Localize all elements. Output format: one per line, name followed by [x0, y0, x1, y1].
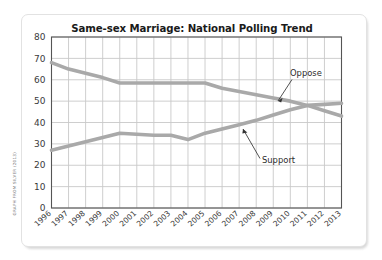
x-tick-label: 2006 — [203, 209, 224, 229]
x-axis-ticks: 1996199719981999200020012002200320042005… — [32, 209, 343, 229]
x-tick-label: 1996 — [32, 209, 53, 229]
y-tick-label: 40 — [34, 118, 46, 128]
x-tick-label: 2012 — [305, 209, 326, 229]
x-tick-label: 1999 — [84, 209, 105, 229]
chart-screenshot: GRAPH FROM SILVER (2013) Same-sex Marria… — [0, 0, 382, 260]
x-tick-label: 2005 — [186, 209, 207, 229]
x-tick-label: 2000 — [101, 209, 122, 229]
y-axis-ticks: 01020304050607080 — [34, 32, 46, 213]
x-tick-label: 1997 — [50, 209, 71, 229]
x-tick-label: 1998 — [67, 209, 88, 229]
x-tick-label: 2002 — [135, 209, 156, 229]
x-tick-label: 2013 — [322, 209, 343, 229]
x-tick-label: 2007 — [220, 209, 241, 229]
series-line-support — [52, 103, 342, 150]
x-tick-label: 2003 — [152, 209, 173, 229]
y-tick-label: 50 — [34, 96, 46, 106]
y-tick-label: 30 — [34, 139, 46, 149]
x-tick-label: 2004 — [169, 209, 190, 229]
line-chart-plot: 01020304050607080 1996199719981999200020… — [0, 0, 382, 260]
annotation-arrow-support — [242, 129, 247, 134]
series-annotations: OpposeSupport — [242, 68, 321, 165]
x-tick-label: 2011 — [288, 209, 309, 229]
annotation-label-support: Support — [262, 155, 296, 165]
y-tick-label: 60 — [34, 75, 46, 85]
y-tick-label: 10 — [34, 182, 46, 192]
gridlines — [52, 37, 342, 208]
annotation-label-oppose: Oppose — [290, 68, 322, 78]
x-tick-label: 2001 — [118, 209, 139, 229]
x-tick-label: 2009 — [254, 209, 275, 229]
y-tick-label: 80 — [34, 32, 46, 42]
x-tick-label: 2008 — [237, 209, 258, 229]
y-tick-label: 20 — [34, 160, 46, 170]
y-tick-label: 70 — [34, 54, 46, 64]
x-tick-label: 2010 — [271, 209, 292, 229]
